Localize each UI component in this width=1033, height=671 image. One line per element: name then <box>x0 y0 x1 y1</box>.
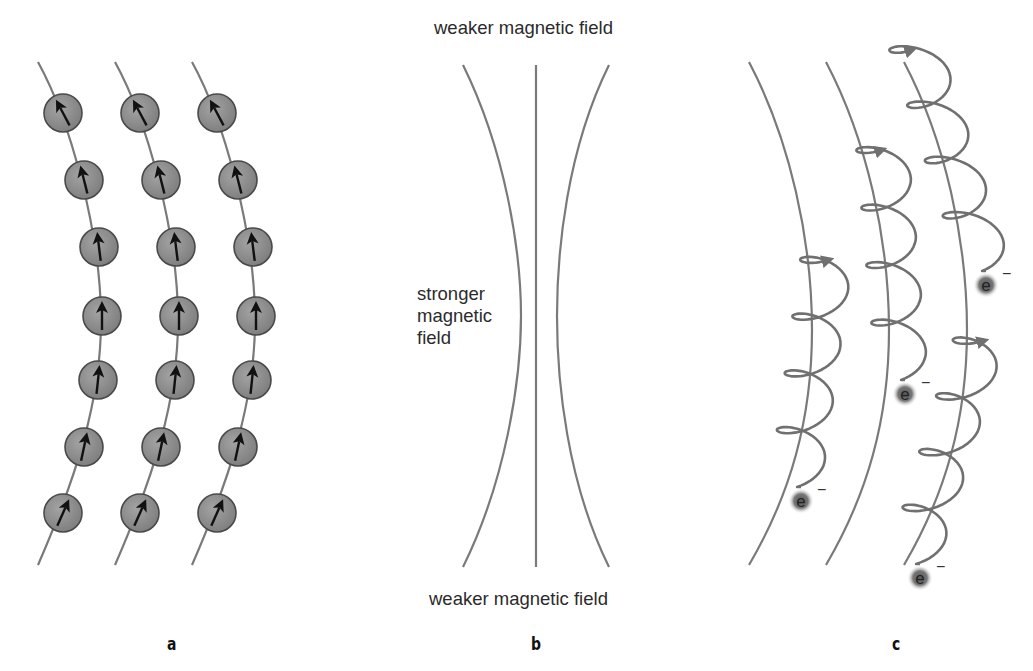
atom <box>121 494 159 532</box>
atom <box>79 361 117 399</box>
atom <box>44 494 82 532</box>
electron-symbol: e <box>915 569 924 588</box>
panel-label-a: a <box>167 634 176 654</box>
electron-symbol: e <box>981 276 990 295</box>
electron-charge: − <box>1002 265 1011 282</box>
electron: e− <box>788 481 826 514</box>
electron-charge: − <box>936 558 945 575</box>
atom <box>237 297 275 335</box>
middle-label-line-1: stronger <box>417 283 537 305</box>
middle-label-line-2: magnetic <box>417 305 537 327</box>
field-line-c3 <box>904 62 967 565</box>
atom <box>83 297 121 335</box>
panel-label-c: c <box>892 634 900 654</box>
electron-symbol: e <box>796 492 805 511</box>
field-line-c2 <box>826 62 889 565</box>
atom <box>234 228 272 266</box>
field-line-b-right <box>557 65 609 567</box>
panel-a-field-lines <box>38 62 255 565</box>
panel-c-field-lines <box>749 62 967 565</box>
panel-a-atoms <box>44 94 275 532</box>
panel-b-bottom-label: weaker magnetic field <box>429 588 608 610</box>
electron-charge: − <box>921 374 930 391</box>
atom <box>157 228 195 266</box>
panel-b-middle-label: stronger magnetic field <box>417 283 537 349</box>
electron: e− <box>907 558 945 591</box>
atom <box>160 297 198 335</box>
atom <box>156 361 194 399</box>
magnetic-field-figure: e−e−e−e− weaker magnetic field stronger … <box>0 0 1033 671</box>
atom <box>219 161 257 199</box>
electron-charge: − <box>817 481 826 498</box>
spiral-1 <box>777 257 848 487</box>
panel-b-top-label: weaker magnetic field <box>434 17 613 39</box>
spiral-2 <box>856 147 926 380</box>
atom <box>65 161 103 199</box>
atom <box>44 94 82 132</box>
atom <box>198 494 236 532</box>
atom <box>219 428 257 466</box>
atom <box>142 161 180 199</box>
spiral-3 <box>889 46 1003 271</box>
atom <box>121 94 159 132</box>
electron-symbol: e <box>900 385 909 404</box>
atom <box>65 428 103 466</box>
atom <box>142 428 180 466</box>
middle-label-line-3: field <box>417 327 537 349</box>
atom <box>233 361 271 399</box>
atom <box>80 228 118 266</box>
electron: e− <box>973 265 1011 298</box>
atom <box>198 94 236 132</box>
panel-label-b: b <box>531 634 541 654</box>
electron: e− <box>892 374 930 407</box>
